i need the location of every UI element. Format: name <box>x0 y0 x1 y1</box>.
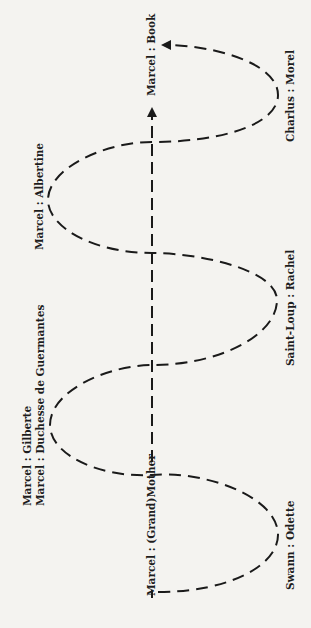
axis-end-label: Marcel : Book <box>145 14 157 96</box>
left-node-duchesse: Marcel : Duchesse de Guermantes <box>34 305 46 506</box>
left-node-albertine: Marcel : Albertine <box>33 143 45 250</box>
oscillation-curve <box>48 45 278 592</box>
right-node-swann-odette: Swann : Odette <box>284 501 296 590</box>
left-node-gilberte: Marcel : Gilberte <box>21 406 33 506</box>
diagram-page: Marcel : Book Marcel : (Grand)Mother Swa… <box>0 0 311 628</box>
axis-start-label: Marcel : (Grand)Mother <box>145 454 157 596</box>
right-node-charlus-morel: Charlus : Morel <box>284 50 296 142</box>
right-node-saint-loup-rachel: Saint-Loup : Rachel <box>284 250 296 366</box>
